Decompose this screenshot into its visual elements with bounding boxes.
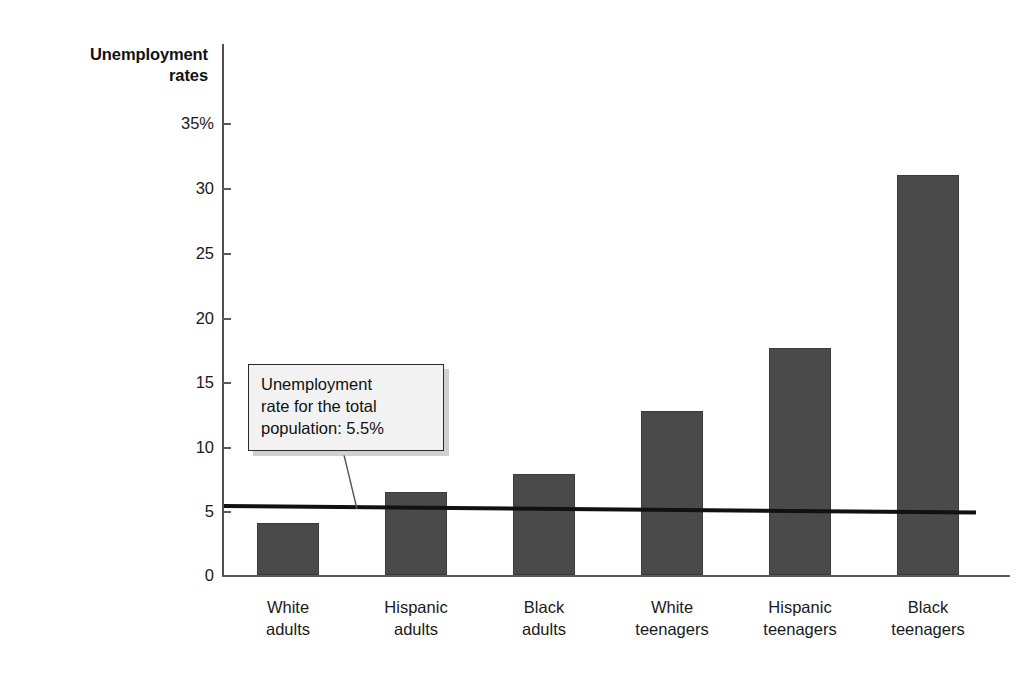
x-label-black-adults: Black adults	[474, 596, 614, 641]
x-label-hispanic-teenagers: Hispanic teenagers	[730, 596, 870, 641]
x-label-black-teenagers: Black teenagers	[858, 596, 998, 641]
callout-line-2: rate for the total	[261, 396, 433, 418]
callout-line-3: population: 5.5%	[261, 418, 433, 440]
callout-box: Unemployment rate for the total populati…	[248, 364, 444, 451]
callout-leader-line	[0, 0, 1036, 688]
x-label-white-teenagers: White teenagers	[602, 596, 742, 641]
chart-figure: Unemployment rates 35% 30 25 20 15 10	[0, 0, 1036, 688]
plot-area: 35% 30 25 20 15 10 5 0	[0, 0, 1036, 688]
x-label-white-adults: White adults	[218, 596, 358, 641]
x-label-hispanic-adults: Hispanic adults	[346, 596, 486, 641]
callout-line-1: Unemployment	[261, 374, 433, 396]
